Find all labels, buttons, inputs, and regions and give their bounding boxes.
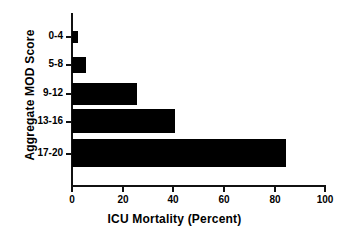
y-tick-mark: [66, 121, 72, 123]
y-tick-label-9-12: 9-12: [43, 88, 63, 98]
bar-9-12: [72, 83, 137, 105]
bar-17-20: [72, 139, 286, 167]
x-tick-label-20: 20: [117, 194, 128, 205]
x-tick-mark: [172, 186, 174, 192]
y-tick-label-0-4: 0-4: [49, 31, 63, 41]
bar-row: [72, 83, 325, 105]
bar-row: [72, 31, 325, 43]
x-tick-label-40: 40: [167, 194, 178, 205]
y-tick-label-17-20: 17-20: [37, 148, 63, 158]
x-tick-mark: [71, 186, 73, 192]
y-tick-label-13-16: 13-16: [37, 116, 63, 126]
x-tick-mark: [122, 186, 124, 192]
y-axis-title: Aggregate MOD Score: [23, 10, 37, 180]
x-tick-mark: [324, 186, 326, 192]
bar-13-16: [72, 109, 175, 133]
bar-0-4: [72, 31, 78, 43]
bar-row: [72, 57, 325, 73]
y-tick-mark: [66, 64, 72, 66]
x-tick-label-100: 100: [317, 194, 334, 205]
x-tick-label-0: 0: [69, 194, 75, 205]
y-tick-mark: [66, 93, 72, 95]
y-tick-label-5-8: 5-8: [49, 59, 63, 69]
y-tick-mark: [66, 153, 72, 155]
x-axis-title: ICU Mortality (Percent): [0, 212, 349, 226]
x-tick-label-60: 60: [218, 194, 229, 205]
chart-figure: 0-4 5-8 9-12 13-16 17-20 0 20 40 60 80 1…: [0, 0, 349, 240]
x-tick-mark: [223, 186, 225, 192]
plot-area: [72, 13, 325, 186]
x-tick-label-80: 80: [269, 194, 280, 205]
bar-row: [72, 139, 325, 167]
y-tick-mark: [66, 36, 72, 38]
x-tick-mark: [274, 186, 276, 192]
bar-5-8: [72, 57, 86, 73]
bar-row: [72, 109, 325, 133]
